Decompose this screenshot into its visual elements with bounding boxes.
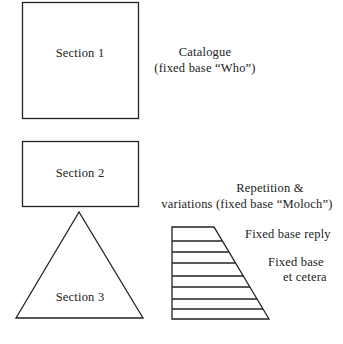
section-3-label: Section 3 xyxy=(22,290,138,305)
fixed-base-label: Fixed base xyxy=(268,255,324,270)
catalogue-label: Catalogue xyxy=(150,45,260,60)
variations-label: variations (fixed base “Moloch”) xyxy=(152,197,342,212)
et-cetera-label: et cetera xyxy=(283,270,327,285)
repetition-label: Repetition & xyxy=(220,181,320,196)
fixed-base-reply-label: Fixed base reply xyxy=(245,227,331,242)
section-2-label: Section 2 xyxy=(22,166,138,181)
catalogue-fixed-base-label: (fixed base “Who”) xyxy=(145,61,265,76)
section-1-label: Section 1 xyxy=(22,46,138,61)
